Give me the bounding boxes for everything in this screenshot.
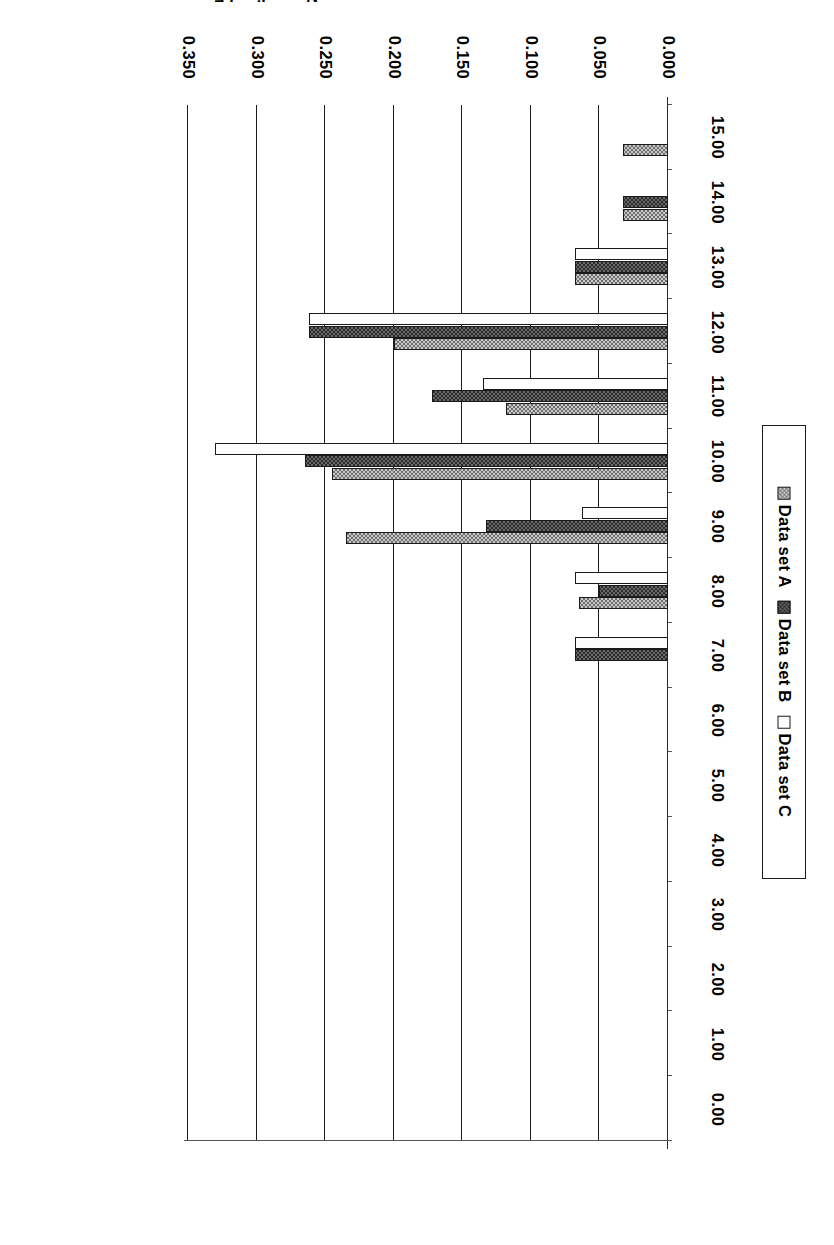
value-tick-label: 0.200 bbox=[384, 28, 403, 88]
bar-data-set-b bbox=[575, 261, 668, 273]
category-tick-label: 14.00 bbox=[708, 166, 727, 240]
bar-chart-figure: 0.0000.0500.1000.1500.2000.2500.3000.350… bbox=[0, 0, 834, 1245]
legend-item[interactable]: Data set B bbox=[775, 601, 794, 703]
category-tick bbox=[668, 557, 672, 558]
bar-data-set-a bbox=[346, 532, 668, 544]
bar-group bbox=[188, 1012, 668, 1077]
bar-group bbox=[188, 429, 668, 494]
bar-group bbox=[188, 494, 668, 559]
category-tick bbox=[668, 816, 672, 817]
legend-item[interactable]: Data set C bbox=[775, 716, 794, 818]
bar-data-set-a bbox=[579, 597, 668, 609]
category-tick-label: 5.00 bbox=[708, 748, 727, 822]
category-tick-label: 15.00 bbox=[708, 101, 727, 175]
legend-label: Data set A bbox=[775, 505, 794, 588]
bar-data-set-a bbox=[394, 338, 668, 350]
bar-data-set-c bbox=[575, 637, 668, 649]
bar-data-set-b bbox=[432, 390, 668, 402]
category-tick bbox=[668, 622, 672, 623]
bar-group bbox=[188, 235, 668, 300]
bar-group bbox=[188, 170, 668, 235]
bar-data-set-a bbox=[332, 468, 668, 480]
legend-label: Data set C bbox=[775, 734, 794, 818]
category-tick bbox=[668, 687, 672, 688]
category-tick-label: 11.00 bbox=[708, 360, 727, 434]
category-tick-label: 0.00 bbox=[708, 1072, 727, 1146]
value-tick-label: 0.000 bbox=[659, 28, 678, 88]
category-tick bbox=[668, 298, 672, 299]
category-tick bbox=[668, 881, 672, 882]
bar-data-set-c bbox=[483, 378, 668, 390]
legend-items: Data set AData set BData set C bbox=[775, 487, 794, 818]
bar-group bbox=[188, 1076, 668, 1141]
category-tick bbox=[668, 752, 672, 753]
bar-data-set-c bbox=[575, 248, 668, 260]
value-tick-label: 0.350 bbox=[179, 28, 198, 88]
bar-group bbox=[188, 753, 668, 818]
category-tick bbox=[668, 1011, 672, 1012]
category-tick-label: 9.00 bbox=[708, 489, 727, 563]
legend-swatch-icon bbox=[778, 716, 791, 729]
category-tick-label: 2.00 bbox=[708, 943, 727, 1017]
bar-data-set-b bbox=[309, 326, 668, 338]
bar-data-set-a bbox=[623, 144, 668, 156]
legend-swatch-icon bbox=[778, 601, 791, 614]
legend-swatch-icon bbox=[778, 487, 791, 500]
value-tick-label: 0.300 bbox=[247, 28, 266, 88]
category-tick bbox=[668, 493, 672, 494]
category-tick-label: 1.00 bbox=[708, 1007, 727, 1081]
category-tick-label: 8.00 bbox=[708, 554, 727, 628]
category-tick-label: 12.00 bbox=[708, 295, 727, 369]
bar-group bbox=[188, 882, 668, 947]
category-tick-label: 6.00 bbox=[708, 684, 727, 758]
plot-area bbox=[188, 105, 668, 1141]
value-tick-label: 0.150 bbox=[453, 28, 472, 88]
value-tick-label: 0.050 bbox=[590, 28, 609, 88]
bar-group bbox=[188, 623, 668, 688]
bar-data-set-c bbox=[575, 572, 668, 584]
bar-data-set-b bbox=[599, 585, 668, 597]
bar-data-set-a bbox=[575, 273, 668, 285]
category-tick bbox=[668, 946, 672, 947]
bar-data-set-c bbox=[309, 313, 668, 325]
category-tick bbox=[668, 104, 672, 105]
bar-group bbox=[188, 364, 668, 429]
bar-group bbox=[188, 105, 668, 170]
bar-data-set-a bbox=[506, 403, 668, 415]
bar-data-set-b bbox=[486, 520, 668, 532]
bar-group bbox=[188, 558, 668, 623]
category-tick bbox=[668, 234, 672, 235]
category-tick-label: 3.00 bbox=[708, 878, 727, 952]
category-tick bbox=[668, 1140, 672, 1141]
bar-group bbox=[188, 299, 668, 364]
category-tick-label: 13.00 bbox=[708, 230, 727, 304]
category-tick bbox=[668, 363, 672, 364]
legend-item[interactable]: Data set A bbox=[775, 487, 794, 588]
bar-data-set-a bbox=[623, 209, 668, 221]
category-tick-label: 7.00 bbox=[708, 619, 727, 693]
value-tick-label: 0.250 bbox=[316, 28, 335, 88]
bar-data-set-b bbox=[575, 649, 668, 661]
chart-rotation-wrapper: 0.0000.0500.1000.1500.2000.2500.3000.350… bbox=[0, 0, 834, 1245]
bar-data-set-b bbox=[305, 455, 668, 467]
value-axis-title: Normalized Frequency bbox=[141, 0, 318, 5]
category-tick bbox=[668, 169, 672, 170]
bar-group bbox=[188, 947, 668, 1012]
category-tick bbox=[668, 1075, 672, 1076]
category-tick-label: 10.00 bbox=[708, 425, 727, 499]
bar-group bbox=[188, 817, 668, 882]
bar-data-set-c bbox=[582, 507, 668, 519]
category-tick-label: 4.00 bbox=[708, 813, 727, 887]
category-tick bbox=[668, 428, 672, 429]
bar-data-set-c bbox=[215, 443, 668, 455]
chart-legend: Data set AData set BData set C bbox=[762, 425, 806, 879]
bar-group bbox=[188, 688, 668, 753]
value-tick-label: 0.100 bbox=[521, 28, 540, 88]
bar-data-set-b bbox=[623, 196, 668, 208]
legend-label: Data set B bbox=[775, 619, 794, 703]
